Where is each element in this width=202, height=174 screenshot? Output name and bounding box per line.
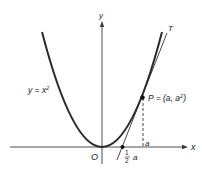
- curve-label: y = x2: [27, 85, 49, 96]
- point-p-label: P = (a, a2): [148, 93, 186, 104]
- half-numerator: 1: [125, 149, 129, 156]
- tangent-label: T: [168, 24, 174, 33]
- half-denominator: 2: [125, 157, 129, 164]
- half-a-point: [121, 145, 125, 149]
- point-p: [140, 95, 144, 99]
- half-a-var: a: [133, 153, 138, 162]
- y-axis-arrow-icon: [100, 21, 104, 27]
- a-label: a: [145, 139, 150, 148]
- x-axis-label: x: [190, 142, 196, 152]
- diagram-canvas: x y O T P = (a, a2) a 1 2 a y = x2: [0, 0, 202, 174]
- x-axis-arrow-icon: [182, 145, 188, 149]
- origin-label: O: [91, 152, 98, 162]
- y-axis-label: y: [98, 11, 104, 20]
